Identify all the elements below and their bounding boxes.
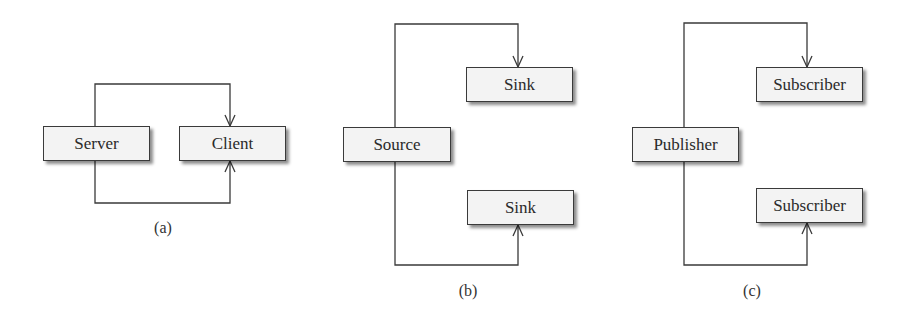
caption-c: (c) [743,282,761,300]
arrow-server-to-client-bottom [95,161,230,203]
client-node: Client [179,126,286,161]
sink-top-label: Sink [504,75,535,95]
caption-a: (a) [154,219,172,237]
sink-node-bottom: Sink [467,190,574,225]
server-label: Server [74,134,118,154]
arrow-server-to-client-top [95,84,230,126]
source-node: Source [343,127,451,162]
publisher-node: Publisher [632,127,739,162]
sink-bottom-label: Sink [505,198,536,218]
caption-b: (b) [459,282,478,300]
sink-node-top: Sink [466,67,573,102]
subscriber-top-label: Subscriber [773,75,846,95]
client-label: Client [212,134,254,154]
subscriber-bottom-label: Subscriber [773,196,846,216]
publisher-label: Publisher [653,135,717,155]
subscriber-node-bottom: Subscriber [756,188,863,223]
source-label: Source [373,135,420,155]
server-node: Server [43,126,150,161]
subscriber-node-top: Subscriber [756,67,863,102]
